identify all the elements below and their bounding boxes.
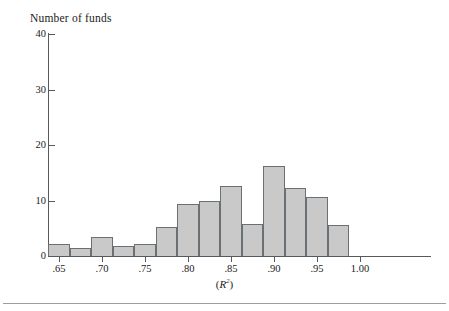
histogram-bar [70, 248, 92, 256]
histogram-bar [91, 237, 113, 256]
x-tick-mark [102, 257, 103, 262]
histogram-bar [199, 201, 221, 257]
histogram-bar [242, 224, 264, 256]
x-tick-label: .95 [297, 263, 337, 274]
x-tick-mark [231, 257, 232, 262]
histogram-bar [285, 188, 307, 256]
x-tick-mark [59, 257, 60, 262]
x-tick-label: .80 [168, 263, 208, 274]
x-axis-title-paren-close: ) [230, 278, 234, 290]
y-tick-mark [49, 256, 55, 257]
histogram-bar [113, 246, 135, 256]
x-tick-mark [274, 257, 275, 262]
plot-area: 010203040 .65.70.75.80.85.90.951.00 [0, 0, 449, 311]
y-tick-mark [49, 145, 55, 146]
y-tick-label: 10 [20, 196, 46, 206]
histogram-bar [177, 204, 199, 256]
y-tick-label: 40 [20, 29, 46, 39]
histogram-bar [220, 186, 242, 256]
histogram-bar [134, 244, 156, 256]
histogram-bar [263, 166, 285, 256]
x-tick-label: .85 [211, 263, 251, 274]
x-tick-mark [360, 257, 361, 262]
y-tick-mark [49, 201, 55, 202]
x-tick-mark [188, 257, 189, 262]
histogram-bar [156, 227, 178, 256]
x-tick-label: .65 [39, 263, 79, 274]
y-tick-mark [49, 34, 55, 35]
x-tick-mark [317, 257, 318, 262]
histogram-figure: Number of funds 010203040 .65.70.75.80.8… [0, 0, 449, 311]
y-tick-label: 20 [20, 140, 46, 150]
histogram-bar [328, 225, 350, 256]
x-tick-label: .75 [125, 263, 165, 274]
x-tick-label: .70 [82, 263, 122, 274]
y-tick-mark [49, 90, 55, 91]
x-tick-label: 1.00 [340, 263, 380, 274]
bottom-divider [3, 303, 446, 304]
x-axis-line [48, 256, 431, 257]
x-tick-label: .90 [254, 263, 294, 274]
histogram-bar [306, 197, 328, 256]
x-axis-title: (R2) [0, 278, 449, 290]
x-tick-mark [145, 257, 146, 262]
y-tick-label: 30 [20, 85, 46, 95]
y-tick-label: 0 [20, 251, 46, 261]
histogram-bar [48, 244, 70, 256]
